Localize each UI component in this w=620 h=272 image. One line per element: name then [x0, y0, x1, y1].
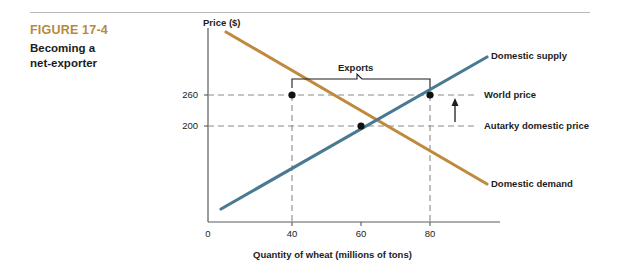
domestic-demand-label: Domestic demand: [491, 178, 573, 189]
y-axis-title: Price ($): [203, 17, 241, 28]
chart-graphic: [0, 0, 620, 272]
x-axis-title: Quantity of wheat (millions of tons): [253, 249, 412, 260]
price-increase-arrow-head: [452, 98, 459, 106]
x-tick-label-60: 60: [348, 228, 374, 239]
marker-supply-at-world-price: [426, 91, 433, 98]
domestic-demand-curve: [226, 32, 487, 184]
x-tick-label-0: 0: [195, 228, 221, 239]
domestic-supply-curve: [221, 57, 487, 209]
marker-autarky-equilibrium: [357, 122, 364, 129]
y-tick-label-260: 260: [168, 89, 198, 100]
autarky-price-label: Autarky domestic price: [484, 120, 589, 131]
world-price-label: World price: [484, 89, 536, 100]
x-tick-label-80: 80: [417, 228, 443, 239]
marker-demand-at-world-price: [288, 91, 295, 98]
x-tick-label-40: 40: [279, 228, 305, 239]
chart-plot-area: Price ($) Quantity of wheat (millions of…: [0, 0, 620, 272]
exports-label: Exports: [338, 62, 373, 73]
y-tick-label-200: 200: [168, 120, 198, 131]
figure-container: FIGURE 17-4 Becoming a net-exporter: [0, 0, 620, 272]
domestic-supply-label: Domestic supply: [491, 50, 567, 61]
